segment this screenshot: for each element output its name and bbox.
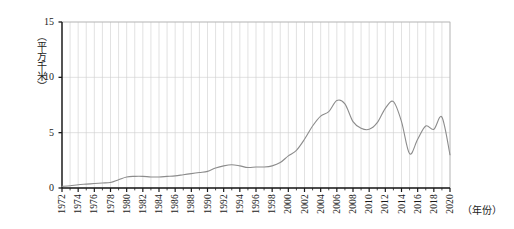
x-tick-label: 1994 — [235, 194, 245, 214]
x-tick-label: 1996 — [251, 194, 261, 214]
x-tick-label: 2014 — [397, 194, 407, 214]
gridlines — [62, 22, 450, 188]
x-axis-title: （年份） — [462, 202, 502, 217]
x-tick-label: 2006 — [332, 194, 342, 214]
x-tick-label: 1990 — [203, 194, 213, 214]
y-axis-title: （平方千米） — [30, 16, 46, 106]
x-tick-label: 2002 — [300, 194, 310, 214]
x-tick-label: 2016 — [413, 194, 423, 214]
x-tick-label: 1978 — [106, 194, 116, 214]
x-tick-label: 1982 — [138, 194, 148, 214]
axis-ticks — [59, 22, 451, 192]
x-tick-label: 2004 — [316, 194, 326, 214]
x-tick-label: 2020 — [445, 194, 455, 214]
x-tick-label: 2008 — [348, 194, 358, 214]
x-tick-label: 1988 — [186, 194, 196, 214]
y-tick-label: 15 — [38, 16, 54, 27]
y-tick-label: 5 — [38, 127, 54, 138]
x-tick-label: 1986 — [170, 194, 180, 214]
x-tick-label: 1992 — [219, 194, 229, 214]
y-tick-label: 0 — [38, 182, 54, 193]
x-tick-label: 1980 — [122, 194, 132, 214]
x-tick-label: 2012 — [380, 194, 390, 214]
x-tick-label: 2010 — [364, 194, 374, 214]
x-tick-label: 1976 — [89, 194, 99, 214]
x-tick-label: 2018 — [429, 194, 439, 214]
chart-container: （平方千米） 051015 19721974197619781980198219… — [0, 0, 514, 229]
x-tick-label: 1974 — [73, 194, 83, 214]
x-tick-label: 1984 — [154, 194, 164, 214]
y-tick-label: 10 — [38, 71, 54, 82]
x-tick-label: 1998 — [267, 194, 277, 214]
x-tick-label: 2000 — [283, 194, 293, 214]
x-tick-label: 1972 — [57, 194, 67, 214]
